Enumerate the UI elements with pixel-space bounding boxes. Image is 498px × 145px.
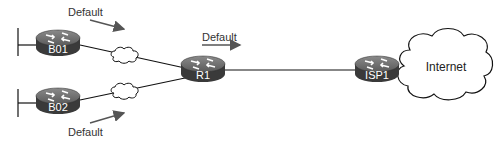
wan-cloud-b01 bbox=[111, 47, 138, 63]
router-isp1: ISP1 bbox=[355, 56, 399, 82]
default-label-r1: Default bbox=[202, 31, 237, 43]
wan-cloud-b02 bbox=[111, 83, 138, 99]
lan-line-b01 bbox=[18, 28, 36, 56]
default-label-b01: Default bbox=[68, 6, 103, 18]
internet-label: Internet bbox=[426, 60, 467, 74]
router-b01-label: B01 bbox=[48, 43, 68, 55]
router-isp1-label: ISP1 bbox=[365, 69, 389, 81]
router-r1-label: R1 bbox=[196, 69, 210, 81]
lan-line-b02 bbox=[18, 89, 36, 117]
arrow-right-icon bbox=[90, 20, 124, 29]
default-route-b01: Default bbox=[68, 6, 124, 29]
default-route-b02: Default bbox=[68, 113, 124, 138]
router-b01: B01 bbox=[36, 30, 80, 56]
default-route-r1: Default bbox=[202, 31, 240, 45]
network-diagram: Internet B01 B02 R1 ISP1 Default Default… bbox=[0, 0, 498, 145]
default-label-b02: Default bbox=[68, 126, 103, 138]
router-b02: B02 bbox=[36, 88, 80, 114]
internet-cloud: Internet bbox=[398, 29, 493, 100]
arrow-right-icon bbox=[90, 113, 124, 123]
router-r1: R1 bbox=[181, 56, 225, 82]
router-b02-label: B02 bbox=[48, 101, 68, 113]
